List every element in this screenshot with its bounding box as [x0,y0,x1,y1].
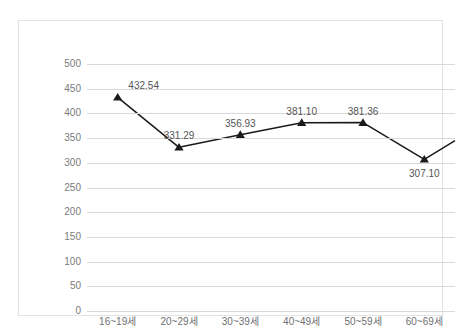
y-axis-tick-labels: 500450400350300250200150100500 [33,64,81,311]
y-tick-label: 50 [35,281,81,291]
gridline [87,138,455,139]
gridline [87,212,455,213]
chart-frame: 500450400350300250200150100500 432.54331… [18,20,443,316]
y-tick-label: 500 [35,59,81,69]
y-tick-label: 0 [35,306,81,316]
data-point-marker [113,93,122,101]
x-tick-label: 16~19세 [87,315,148,331]
gridline [87,64,455,65]
gridline [87,311,455,312]
gridline [87,262,455,263]
x-tick-label: 60~69세 [394,315,455,331]
y-tick-label: 350 [35,133,81,143]
y-tick-label: 200 [35,207,81,217]
data-label: 432.54 [128,81,159,91]
gridline [87,163,455,164]
data-label: 331.29 [164,131,195,141]
x-axis-tick-labels: 16~19세20~29세30~39세40~49세50~59세60~69세 [87,315,455,331]
x-tick-label: 40~49세 [271,315,332,331]
plot-area: 432.54331.29356.93381.10381.36307.10 [87,64,455,311]
gridline [87,237,455,238]
y-tick-label: 400 [35,108,81,118]
data-label: 307.10 [409,169,440,179]
gridline [87,113,455,114]
y-tick-label: 450 [35,84,81,94]
x-tick-label: 20~29세 [148,315,209,331]
gridline [87,188,455,189]
data-label: 381.36 [348,107,379,117]
y-tick-label: 300 [35,158,81,168]
data-point-marker [420,155,429,163]
data-label: 381.10 [286,107,317,117]
y-tick-label: 250 [35,183,81,193]
gridline [87,286,455,287]
x-tick-label: 50~59세 [332,315,393,331]
y-tick-label: 100 [35,257,81,267]
y-tick-label: 150 [35,232,81,242]
data-label: 356.93 [225,119,256,129]
x-tick-label: 30~39세 [210,315,271,331]
